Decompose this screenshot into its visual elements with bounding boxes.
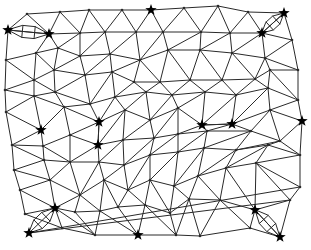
- mesh-edge: [29, 187, 300, 233]
- mesh-edge: [85, 54, 110, 75]
- mesh-edge: [123, 110, 125, 140]
- mesh-node: [289, 199, 292, 202]
- mesh-edge: [300, 121, 302, 155]
- mesh-edge: [270, 110, 280, 141]
- mesh-edge: [200, 32, 201, 50]
- mesh-edge: [80, 54, 110, 56]
- mesh-node: [42, 145, 45, 148]
- mesh-node: [162, 31, 165, 34]
- mesh-edge: [14, 170, 20, 190]
- mesh-edge: [43, 135, 70, 146]
- mesh-node: [13, 169, 16, 172]
- mesh-node: [33, 79, 36, 82]
- mesh-node: [59, 11, 62, 14]
- mesh-edge: [226, 168, 255, 210]
- mesh-edge: [110, 32, 136, 54]
- mesh-edge: [12, 145, 44, 160]
- mesh-node: [49, 179, 52, 182]
- mesh-node: [139, 59, 142, 62]
- mesh-edge: [270, 100, 298, 110]
- mesh-node: [183, 7, 186, 10]
- mesh-node: [269, 109, 272, 112]
- mesh-edge: [89, 10, 105, 32]
- mesh-edge: [14, 160, 44, 170]
- mesh-edge: [256, 145, 268, 163]
- mesh-node: [299, 186, 302, 189]
- mesh-edge: [198, 176, 220, 200]
- mesh-node: [89, 103, 92, 106]
- mesh-edge: [99, 162, 124, 165]
- mesh-edge: [5, 90, 6, 112]
- mesh-edge: [154, 134, 178, 138]
- mesh-edge: [128, 190, 145, 205]
- mesh-node: [99, 210, 102, 213]
- mesh-node: [188, 198, 191, 201]
- mesh-edge: [204, 148, 236, 150]
- mesh-node: [235, 149, 238, 152]
- mesh-edge: [6, 96, 34, 112]
- mesh-edge: [256, 163, 290, 200]
- mesh-edge: [292, 40, 298, 70]
- mesh-edge: [255, 163, 256, 210]
- mesh-node: [54, 91, 57, 94]
- mesh-node: [33, 95, 36, 98]
- mesh-edge: [251, 131, 280, 141]
- mesh-edge: [232, 53, 265, 58]
- mesh-edge: [104, 165, 124, 180]
- mesh-edge: [104, 180, 118, 207]
- mesh-edge: [80, 195, 100, 211]
- mesh-edge: [204, 131, 207, 148]
- mesh-edge: [200, 50, 222, 80]
- mesh-edge: [284, 13, 292, 40]
- mesh-edge: [34, 80, 55, 92]
- mesh-edge: [110, 54, 140, 60]
- mesh-edge: [5, 90, 34, 96]
- mesh-node: [5, 111, 8, 114]
- mesh-edge: [184, 8, 201, 32]
- mesh-edge: [178, 108, 202, 125]
- mesh-edge: [123, 120, 150, 140]
- mesh-edge: [150, 120, 154, 138]
- mesh-edge: [58, 33, 80, 48]
- mesh-edge: [64, 104, 90, 107]
- mesh-node: [199, 235, 202, 238]
- mesh-node: [19, 189, 22, 192]
- mesh-edge: [220, 168, 226, 200]
- mesh-node: [267, 87, 270, 90]
- mesh-edge: [189, 199, 220, 200]
- mesh-edge: [178, 131, 207, 152]
- mesh-edge: [150, 152, 178, 180]
- mesh-node: [61, 227, 64, 230]
- mesh-edge: [146, 92, 150, 120]
- mesh-edge: [202, 95, 236, 125]
- mesh-edge: [34, 96, 41, 130]
- mesh-node: [231, 52, 234, 55]
- star-icon: [132, 229, 143, 240]
- mesh-edge: [265, 58, 298, 70]
- mesh-node: [169, 212, 172, 215]
- mesh-node: [88, 9, 91, 12]
- mesh-edge: [25, 208, 55, 214]
- mesh-node: [247, 11, 250, 14]
- mesh-edge: [268, 145, 300, 155]
- mesh-node: [217, 5, 220, 8]
- mesh-node: [177, 133, 180, 136]
- mesh-edge: [200, 228, 250, 236]
- mesh-node: [26, 13, 29, 16]
- mesh-edge: [280, 121, 302, 141]
- mesh-edge: [90, 104, 99, 122]
- mesh-edge: [174, 186, 189, 199]
- mesh-edge: [105, 10, 122, 32]
- mesh-edge: [100, 180, 104, 211]
- mesh-edge: [198, 168, 226, 176]
- mesh-edge: [110, 54, 112, 72]
- mesh-node: [255, 162, 258, 165]
- mesh-node: [121, 9, 124, 12]
- star-icon: [196, 119, 207, 130]
- mesh-node: [84, 74, 87, 77]
- mesh-edge: [123, 140, 124, 165]
- mesh-edge: [200, 200, 220, 236]
- mesh-edge: [124, 155, 150, 165]
- mesh-edge: [80, 162, 99, 195]
- mesh-edge: [140, 60, 160, 82]
